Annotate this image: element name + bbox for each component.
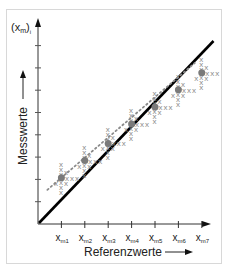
x-marker-icon: x	[176, 100, 180, 109]
cluster-mean-dot	[128, 120, 135, 127]
data-cluster: xxxxxxxxxxxx	[171, 72, 196, 109]
y-axis-title-text: Messwerte	[16, 107, 30, 165]
x-marker-icon: x	[75, 174, 79, 183]
scatter-chart: xm1xm2xm3xm4xm5xm6xm7 (xm)i Messwerte Re…	[0, 0, 229, 271]
cluster-mean-dot	[105, 140, 112, 147]
y-axis-arrow-icon	[35, 18, 41, 27]
y-axis-top-label: (xm)i	[11, 21, 31, 35]
x-title-arrow-icon	[185, 249, 193, 255]
x-marker-icon: x	[54, 179, 58, 188]
x-tick-label: xm2	[79, 232, 93, 244]
x-marker-icon: x	[192, 86, 196, 95]
x-marker-icon: x	[199, 83, 203, 92]
x-marker-icon: x	[134, 114, 138, 123]
x-tick-label: xm6	[172, 232, 186, 244]
x-marker-icon: x	[158, 108, 162, 117]
x-marker-icon: x	[148, 108, 152, 117]
cluster-mean-dot	[152, 103, 159, 110]
x-marker-icon: x	[87, 162, 91, 171]
x-marker-icon: x	[59, 188, 63, 197]
x-marker-icon: x	[64, 179, 68, 188]
x-marker-icon: x	[111, 144, 115, 153]
x-marker-icon: x	[215, 69, 219, 78]
x-tick-label: xm4	[126, 232, 140, 244]
x-axis-title-text: Referenzwerte	[84, 245, 162, 259]
x-marker-icon: x	[204, 63, 208, 72]
cluster-mean-dot	[58, 174, 65, 181]
x-marker-icon: x	[210, 69, 214, 78]
x-marker-icon: x	[169, 103, 173, 112]
x-marker-icon: x	[70, 174, 74, 183]
x-marker-icon: x	[101, 144, 105, 153]
x-marker-icon: x	[117, 139, 121, 148]
data-cluster: xxxxxxxxxxxx	[101, 125, 126, 162]
x-marker-icon: x	[204, 74, 208, 83]
x-marker-icon: x	[64, 168, 68, 177]
x-tick-label: xm3	[102, 232, 116, 244]
x-marker-icon: x	[106, 153, 110, 162]
x-marker-icon: x	[153, 117, 157, 126]
cluster-mean-dot	[198, 69, 205, 76]
x-marker-icon: x	[171, 91, 175, 100]
x-marker-icon: x	[134, 125, 138, 134]
x-marker-icon: x	[158, 97, 162, 106]
x-marker-icon: x	[111, 133, 115, 142]
cluster-mean-dot	[81, 157, 88, 164]
x-marker-icon: x	[129, 134, 133, 143]
y-title-arrow-icon	[20, 70, 26, 78]
x-marker-icon: x	[145, 120, 149, 129]
x-marker-icon: x	[82, 171, 86, 180]
x-marker-icon: x	[93, 157, 97, 166]
data-cluster: xxxxxxxxxxxx	[148, 89, 173, 126]
x-marker-icon: x	[181, 80, 185, 89]
cluster-mean-dot	[175, 86, 182, 93]
x-marker-icon: x	[164, 103, 168, 112]
x-marker-icon: x	[194, 74, 198, 83]
x-tick-label: xm1	[55, 232, 69, 244]
x-marker-icon: x	[187, 86, 191, 95]
x-marker-icon: x	[98, 157, 102, 166]
x-marker-icon: x	[77, 162, 81, 171]
x-tick-label: xm5	[149, 232, 163, 244]
y-axis	[35, 18, 41, 224]
x-marker-icon: x	[140, 120, 144, 129]
x-marker-icon: x	[87, 151, 91, 160]
y-axis-title: Messwerte	[16, 70, 30, 165]
data-cluster: xxxxxxxxxxxx	[77, 143, 102, 180]
x-axis: xm1xm2xm3xm4xm5xm6xm7	[38, 221, 211, 244]
data-cluster: xxxxxxxxxxxx	[194, 55, 219, 92]
x-axis-arrow-icon	[202, 221, 211, 227]
x-tick-label: xm7	[196, 232, 210, 244]
x-marker-icon: x	[181, 91, 185, 100]
x-marker-icon: x	[124, 125, 128, 134]
plot-area: xxxxxxxxxxxxxxxxxxxxxxxxxxxxxxxxxxxxxxxx…	[39, 41, 219, 223]
x-marker-icon: x	[122, 139, 126, 148]
x-axis-title: Referenzwerte	[84, 245, 193, 259]
